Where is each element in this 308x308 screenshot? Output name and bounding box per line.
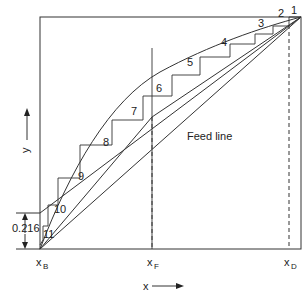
x-axis-label: x xyxy=(143,280,149,292)
x-arrow-icon xyxy=(176,283,184,289)
rectifying-line xyxy=(40,17,301,213)
stage-label-1: 1 xyxy=(291,4,297,16)
stage-label-7: 7 xyxy=(131,105,137,117)
stage-label-6: 6 xyxy=(156,82,162,94)
stripping-line xyxy=(40,117,152,249)
stage-label-4: 4 xyxy=(221,36,227,48)
stage-label-8: 8 xyxy=(103,136,109,148)
stage-label-10: 10 xyxy=(54,203,66,215)
xf-label: x xyxy=(147,256,153,268)
arrow-up-icon xyxy=(22,213,28,220)
stage-label-11: 11 xyxy=(43,228,54,240)
y-axis-label: y xyxy=(19,147,31,153)
intercept-label: 0.216 xyxy=(12,222,40,234)
feed-line-label: Feed line xyxy=(187,130,232,142)
xb-sub: B xyxy=(43,262,48,271)
stage-label-9: 9 xyxy=(78,170,84,182)
stage-label-5: 5 xyxy=(187,56,193,68)
y-arrow-icon xyxy=(24,108,30,116)
xb-label: x xyxy=(36,256,42,268)
diagonal-line xyxy=(40,17,301,249)
xd-sub: D xyxy=(291,262,297,271)
arrow-down-icon xyxy=(22,242,28,249)
mccabe-thiele-diagram: 1 2 3 4 5 6 7 8 9 10 11 Feed line 0.216 … xyxy=(0,0,308,308)
xd-label: x xyxy=(284,256,290,268)
stage-label-3: 3 xyxy=(258,17,264,29)
xf-sub: F xyxy=(154,262,159,271)
feed-line xyxy=(152,17,301,117)
stage-label-2: 2 xyxy=(278,7,284,19)
